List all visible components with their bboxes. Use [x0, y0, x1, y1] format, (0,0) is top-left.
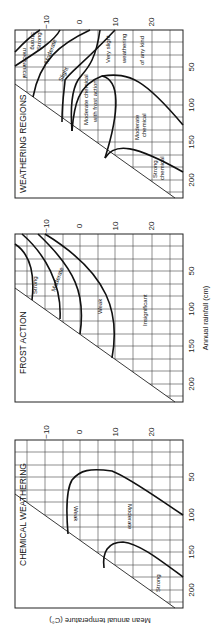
rainfall-tick: 200 [187, 377, 196, 391]
rainfall-tick: 100 [187, 508, 196, 522]
region-label: with frost action [92, 80, 98, 123]
rainfall-tick: 50 [187, 62, 196, 71]
temperature-tick: 0 [75, 223, 84, 228]
temperature-tick: −10 [42, 15, 51, 29]
rainfall-tick: 150 [187, 135, 196, 149]
temperature-tick: 10 [111, 17, 120, 26]
region-label: weathering [121, 34, 127, 64]
region-label: chemical [141, 113, 147, 137]
temperature-tick: −10 [42, 219, 51, 233]
region-label: Insignificant [142, 294, 148, 326]
rainfall-tick: 150 [187, 545, 196, 559]
rainfall-tick: 100 [187, 98, 196, 112]
region-label: Strong [152, 160, 158, 178]
region-label: Weak [73, 506, 79, 522]
panel-title: CHEMICAL WEATHERING [18, 463, 28, 566]
region-label: Moderate [134, 114, 140, 140]
region-label: chemical [159, 156, 165, 180]
region-label: Moderate chemical [83, 74, 89, 125]
region-label: Very slight [105, 35, 111, 63]
region-label: Strong [155, 574, 161, 592]
temperature-tick: −10 [42, 425, 51, 439]
x-axis-label: Annual rainfall (cm) [201, 285, 210, 350]
temperature-tick: 20 [147, 221, 156, 230]
panel-title: WEATHERING REGIONS [18, 94, 28, 193]
rainfall-tick: 200 [187, 583, 196, 597]
panel-chemical-weathering: CHEMICAL WEATHERING Weak Moderate Strong… [15, 425, 196, 625]
region-label: Weak [97, 298, 103, 314]
temperature-tick: 10 [111, 221, 120, 230]
panel-title: FROST ACTION [18, 311, 28, 374]
rainfall-tick: 100 [187, 302, 196, 316]
temperature-tick: 20 [147, 17, 156, 26]
rainfall-tick: 200 [187, 173, 196, 187]
temperature-tick: 0 [75, 429, 84, 434]
rainfall-tick: 50 [187, 266, 196, 275]
y-axis-label: Mean annual temperature (C°) [49, 616, 151, 625]
temperature-tick: 10 [111, 427, 120, 436]
region-label: Strong [36, 32, 42, 50]
region-label: Moderate [127, 504, 133, 530]
rainfall-tick: 150 [187, 339, 196, 353]
region-label: of any kind [139, 36, 145, 65]
panel-weathering-regions: WEATHERING REGIONS mechanical Strong Str… [15, 15, 196, 198]
temperature-tick: 0 [75, 19, 84, 24]
panel-frost-action: FROST ACTION Strong Moderate Weak Insign… [15, 219, 210, 402]
region-label: mechanical [22, 48, 28, 78]
region-label: Strong [32, 276, 38, 294]
rainfall-tick: 50 [187, 472, 196, 481]
weathering-diagram: WEATHERING REGIONS mechanical Strong Str… [0, 0, 218, 626]
temperature-tick: 20 [147, 427, 156, 436]
